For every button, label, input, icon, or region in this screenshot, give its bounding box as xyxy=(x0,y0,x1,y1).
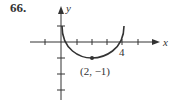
vertex-label: (2, −1) xyxy=(80,65,110,78)
x-axis-arrow-icon xyxy=(152,39,160,45)
y-axis-arrow-icon xyxy=(58,6,64,14)
graph: x y 4 (2, −1) xyxy=(0,0,175,108)
x-axis-label: x xyxy=(162,36,168,48)
y-axis-label: y xyxy=(65,2,71,14)
x-tick-label-4: 4 xyxy=(119,46,125,58)
vertex-point xyxy=(90,56,94,60)
